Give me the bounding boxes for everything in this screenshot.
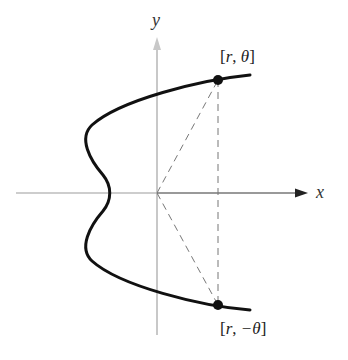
point-r-theta-label: [r, θ] (220, 47, 255, 66)
x-axis-label: x (315, 182, 324, 202)
y-axis-label: y (150, 10, 160, 30)
point-r-neg-theta-label: [r, −θ] (220, 319, 266, 338)
point-r-neg-theta-marker (213, 300, 223, 310)
symmetry-diagram: y x [r, θ] [r, −θ] (0, 0, 348, 360)
point-r-theta-marker (213, 75, 223, 85)
x-axis-arrow-icon (295, 189, 308, 198)
x-axis (16, 189, 308, 198)
y-axis-arrow-icon (153, 37, 161, 50)
